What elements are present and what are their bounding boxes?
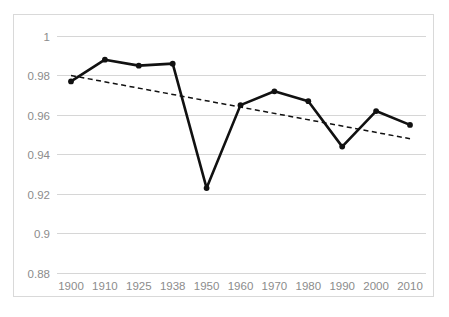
data-point-1900 [68,79,74,85]
x-axis-tick-labels: 1900191019251938195019601970198019902000… [58,280,423,292]
data-point-1910 [102,57,108,63]
y-axis-label-0.9: 0.9 [34,228,50,240]
data-series-group [71,60,410,188]
x-axis-label-1970: 1970 [262,280,288,292]
x-axis-label-1950: 1950 [194,280,220,292]
y-axis-label-0.92: 0.92 [28,189,50,201]
data-point-2010 [407,122,413,128]
chart-container: 0.880.90.920.940.960.981 190019101925193… [0,0,449,317]
y-axis-label-0.88: 0.88 [28,268,50,280]
x-axis-label-1925: 1925 [126,280,152,292]
y-axis-label-1: 1 [44,31,50,43]
y-axis-label-0.96: 0.96 [28,110,50,122]
data-point-1960 [238,102,244,108]
x-axis-label-2000: 2000 [363,280,389,292]
y-axis-label-0.98: 0.98 [28,70,50,82]
data-point-1990 [339,144,345,150]
x-axis-label-1980: 1980 [296,280,322,292]
x-axis-label-1900: 1900 [58,280,84,292]
series-line-value [71,60,410,188]
data-point-1950 [204,185,210,191]
x-axis-label-1910: 1910 [92,280,118,292]
x-axis-label-2010: 2010 [397,280,423,292]
line-chart-svg: 0.880.90.920.940.960.981 190019101925193… [14,15,433,296]
data-point-1938 [170,61,176,67]
data-point-1970 [272,88,278,94]
y-axis-tick-labels: 0.880.90.920.940.960.981 [28,31,51,280]
x-axis-label-1990: 1990 [329,280,355,292]
data-point-markers-group [68,57,413,191]
y-axis-label-0.94: 0.94 [28,149,51,161]
data-point-1925 [136,63,142,69]
chart-plot-frame: 0.880.90.920.940.960.981 190019101925193… [13,14,434,297]
data-point-2000 [373,108,379,114]
x-axis-label-1960: 1960 [228,280,254,292]
x-axis-label-1938: 1938 [160,280,186,292]
gridlines-group [57,36,426,273]
data-point-1980 [305,98,311,104]
